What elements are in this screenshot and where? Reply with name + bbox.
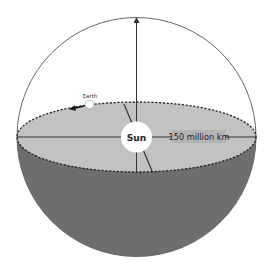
celestial-sphere-diagram: Sun Earth 150 million km [0, 0, 269, 271]
sun-label: Sun [127, 133, 146, 143]
earth-icon [85, 100, 94, 109]
distance-label: 150 million km [169, 132, 230, 142]
earth-label: Earth [83, 93, 98, 99]
